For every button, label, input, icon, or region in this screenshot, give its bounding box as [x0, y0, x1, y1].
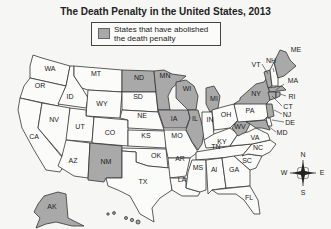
compass-w: W — [281, 169, 288, 176]
label-ak: AK — [47, 203, 57, 210]
compass-rose: N S E W — [278, 148, 328, 198]
label-ne: NE — [137, 112, 147, 119]
label-mn: MN — [160, 72, 171, 79]
label-ny: NY — [251, 90, 261, 97]
label-ct: CT — [283, 103, 293, 110]
label-mo: MO — [171, 132, 183, 139]
state-hi[interactable] — [107, 212, 140, 224]
label-nj: NJ — [283, 111, 292, 118]
label-tx: TX — [139, 178, 148, 185]
label-al: Al — [211, 166, 218, 173]
state-ri[interactable] — [276, 92, 280, 98]
state-ak[interactable] — [34, 192, 84, 228]
label-ks: KS — [141, 132, 151, 139]
label-va: VA — [251, 134, 260, 141]
label-az: AZ — [69, 157, 79, 164]
compass-n: N — [300, 151, 305, 158]
state-me[interactable] — [274, 50, 296, 78]
label-id: ID — [67, 93, 74, 100]
label-ar: AR — [175, 155, 185, 162]
label-vt: VT — [252, 61, 262, 68]
label-nd: ND — [134, 74, 144, 81]
label-de: DE — [285, 119, 295, 126]
label-ia: IA — [171, 115, 178, 122]
label-md: MD — [277, 129, 288, 136]
label-ga: GA — [229, 166, 239, 173]
label-wv: WV — [234, 123, 246, 130]
label-sd: SD — [133, 93, 143, 100]
label-oh: OH — [221, 111, 232, 118]
label-mi: MI — [210, 95, 218, 102]
compass-s: S — [301, 189, 306, 196]
label-tn: TN — [211, 143, 220, 150]
label-ma: MA — [288, 77, 299, 84]
label-il: IL — [192, 115, 198, 122]
label-la: LA — [178, 176, 187, 183]
label-ms: MS — [193, 164, 204, 171]
label-ri: RI — [289, 93, 296, 100]
label-me: ME — [291, 46, 302, 53]
label-ut: UT — [75, 123, 85, 130]
label-wy: WY — [96, 100, 108, 107]
label-pa: PA — [246, 107, 255, 114]
label-nm: NM — [101, 158, 112, 165]
label-wi: WI — [183, 85, 192, 92]
label-fl: FL — [245, 194, 253, 201]
label-in: IN — [207, 116, 214, 123]
label-nc: NC — [253, 144, 263, 151]
label-co: CO — [105, 129, 116, 136]
label-nh: NH — [266, 57, 276, 64]
label-mt: MT — [91, 70, 102, 77]
label-ca: CA — [29, 133, 39, 140]
label-or: OR — [35, 82, 46, 89]
label-wa: WA — [44, 65, 55, 72]
label-sc: SC — [242, 157, 252, 164]
label-ok: OK — [151, 152, 161, 159]
compass-e: E — [320, 169, 325, 176]
compass-icon: N S E W — [278, 148, 328, 198]
label-nv: NV — [49, 116, 59, 123]
